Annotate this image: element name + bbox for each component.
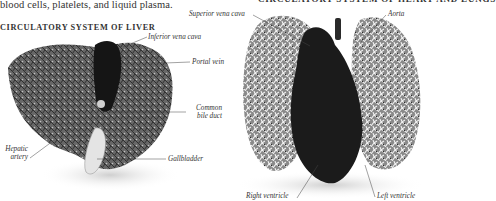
label-left-ventricle: Left ventricle <box>377 192 415 200</box>
heart-lungs-heading: CIRCULATORY SYSTEM OF HEART AND LUNGS <box>258 0 496 4</box>
label-right-ventricle: Right ventricle <box>246 192 289 200</box>
label-hepatic-artery: Hepatic artery <box>0 145 28 161</box>
label-gallbladder: Gallbladder <box>168 155 203 163</box>
liver-heading: CIRCULATORY SYSTEM OF LIVER <box>0 23 155 32</box>
liver-illustration <box>8 37 190 191</box>
label-common-bile-duct: Common bile duct <box>188 104 222 120</box>
label-inferior-vena-cava: Inferior vena cava <box>148 33 201 41</box>
label-aorta: Aorta <box>388 10 404 18</box>
label-superior-vena-cava: Superior vena cava <box>189 10 245 18</box>
intro-text: blood cells, platelets, and liquid plasm… <box>0 0 173 10</box>
heart-lungs-illustration <box>235 15 425 199</box>
label-portal-vein: Portal vein <box>192 58 224 66</box>
